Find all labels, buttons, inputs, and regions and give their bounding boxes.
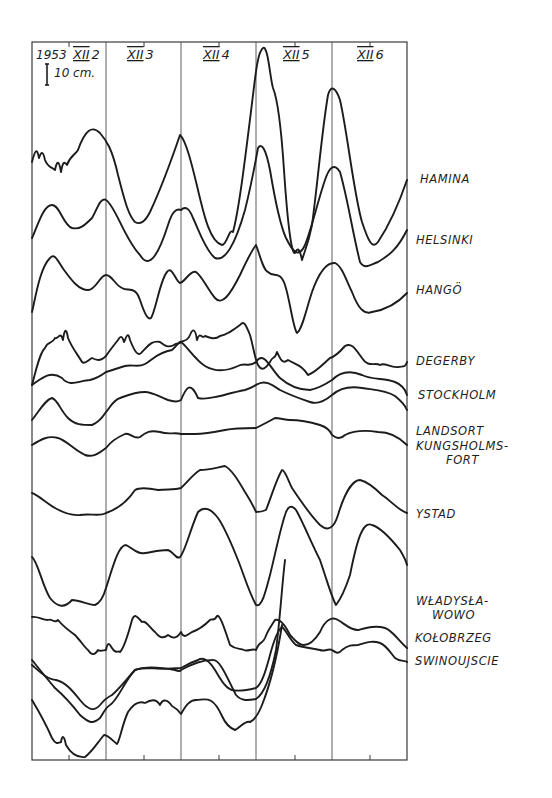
year-label: 1953 (36, 48, 67, 62)
curve-kolobrzeg (32, 616, 407, 654)
day-label-4: XII4 (202, 47, 230, 62)
station-labels: HAMINA HELSINKI HANGÖ DEGERBY STOCKHOLM … (415, 172, 509, 668)
label-wladyslawowo: WŁADYSŁA- (416, 594, 489, 608)
label-kungsholmsfort: KUNGSHOLMS- (416, 439, 509, 453)
label-hamina: HAMINA (420, 172, 470, 186)
label-stockholm: STOCKHOLM (418, 388, 496, 402)
day-label-3: XII3 (126, 47, 154, 62)
scale-bar: 10 cm. (45, 64, 95, 85)
svg-text:XII2: XII2 (72, 47, 100, 62)
label-swinoujscie: SWINOUJSCIE (415, 654, 499, 668)
tide-gauge-chart: 1953 XII2 XII3 XII4 XII5 XII6 10 cm. (0, 0, 552, 798)
curve-kungsholmsfort (32, 418, 407, 456)
day-label-5: XII5 (282, 47, 310, 62)
chart-frame (32, 42, 407, 760)
label-landsort: LANDSORT (416, 424, 484, 438)
label-ystad: YSTAD (416, 507, 456, 521)
label-kolobrzeg: KOŁOBRZEG (415, 631, 492, 645)
svg-text:XII3: XII3 (126, 47, 154, 62)
svg-text:XII6: XII6 (356, 47, 384, 62)
day-label-6: XII6 (356, 47, 384, 62)
scale-bar-label: 10 cm. (54, 66, 95, 80)
curve-landsort (32, 383, 407, 425)
label-helsinki: HELSINKI (416, 233, 473, 247)
label-hango: HANGÖ (416, 281, 462, 297)
curves (32, 48, 407, 757)
day-label-2: XII2 (72, 47, 100, 62)
curve-degerby (32, 323, 407, 385)
curve-wladyslawowo (32, 507, 407, 606)
label-degerby: DEGERBY (416, 354, 476, 368)
label-wladyslawowo-line2: WOWO (432, 608, 475, 622)
label-kungsholmsfort-line2: FORT (446, 453, 479, 467)
curve-swinoujscie (32, 627, 407, 709)
svg-text:XII4: XII4 (202, 47, 230, 62)
svg-text:XII5: XII5 (282, 47, 310, 62)
